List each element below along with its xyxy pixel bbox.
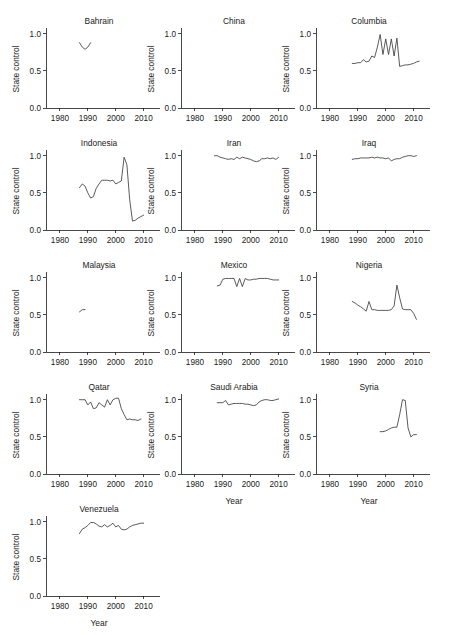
y-axis-title: State control [281,167,291,214]
x-tick-label: 2000 [242,236,261,245]
x-tick-label: 2000 [107,602,126,611]
data-line [79,398,140,420]
chart-canvas: Bahrain0.00.51.01980199020002010State co… [0,0,451,635]
panel-syria: Syria0.00.51.01980199020002010State cont… [281,382,430,506]
panel-title: Columbia [351,16,387,26]
y-tick-label: 1.0 [165,30,177,39]
y-tick-label: 0.5 [300,311,312,320]
y-tick-label: 0.5 [300,189,312,198]
figure-small-multiples: Bahrain0.00.51.01980199020002010State co… [0,0,451,635]
panel-title: Malaysia [82,260,115,270]
x-tick-label: 2000 [107,114,126,123]
y-tick-label: 1.0 [30,518,42,527]
panel-venezuela: Venezuela0.00.51.01980199020002010State … [11,504,160,628]
x-tick-label: 2000 [242,358,261,367]
x-tick-label: 1990 [79,602,98,611]
x-axis-title: Year [361,496,378,506]
y-axis-title: State control [281,411,291,458]
data-line [79,310,85,312]
y-tick-label: 0.5 [165,67,177,76]
x-tick-label: 1980 [51,480,70,489]
y-tick-label: 0.0 [30,592,42,601]
y-tick-label: 1.0 [300,274,312,283]
x-tick-label: 2010 [405,358,424,367]
x-tick-label: 1980 [51,602,70,611]
x-tick-label: 2010 [270,358,289,367]
y-tick-label: 1.0 [300,30,312,39]
x-tick-label: 2000 [107,480,126,489]
x-tick-label: 1990 [349,480,368,489]
y-axis-title: State control [11,289,21,336]
y-tick-label: 0.5 [30,67,42,76]
y-axis-title: State control [281,45,291,92]
x-tick-label: 1990 [214,480,233,489]
panel-title: Iran [227,138,242,148]
y-tick-label: 1.0 [300,152,312,161]
x-tick-label: 1980 [51,114,70,123]
x-tick-label: 1990 [79,480,98,489]
panel-iraq: Iraq0.00.51.01980199020002010State contr… [281,138,430,245]
y-tick-label: 0.0 [30,104,42,113]
data-line [217,399,278,406]
x-tick-label: 2010 [135,358,154,367]
x-tick-label: 2010 [135,114,154,123]
x-tick-label: 1980 [321,358,340,367]
y-tick-label: 0.0 [165,470,177,479]
panel-title: Nigeria [356,260,383,270]
x-tick-label: 2000 [107,358,126,367]
panel-title: Indonesia [81,138,118,148]
x-tick-label: 2000 [377,480,396,489]
panel-title: China [223,16,245,26]
x-tick-label: 2000 [242,114,261,123]
y-tick-label: 1.0 [30,152,42,161]
panel-bahrain: Bahrain0.00.51.01980199020002010State co… [11,16,160,123]
y-axis-title: State control [11,167,21,214]
x-tick-label: 1990 [79,114,98,123]
panel-iran: Iran0.00.51.01980199020002010State contr… [146,138,295,245]
x-axis-title: Year [226,496,243,506]
panel-mexico: Mexico0.00.51.01980199020002010State con… [146,260,295,367]
y-tick-label: 1.0 [165,396,177,405]
panel-title: Iraq [362,138,377,148]
x-tick-label: 1980 [321,236,340,245]
x-tick-label: 2010 [135,480,154,489]
data-line [79,43,90,50]
data-line [79,157,143,221]
y-axis-title: State control [281,289,291,336]
data-line [217,278,278,286]
x-tick-label: 2000 [377,114,396,123]
x-tick-label: 1980 [321,114,340,123]
x-tick-label: 2010 [405,236,424,245]
y-tick-label: 0.5 [30,433,42,442]
y-axis-title: State control [146,45,156,92]
panel-malaysia: Malaysia0.00.51.01980199020002010State c… [11,260,160,367]
panel-title: Bahrain [85,16,114,26]
y-tick-label: 1.0 [165,152,177,161]
x-tick-label: 1980 [51,236,70,245]
data-line [214,156,278,162]
y-axis-title: State control [11,533,21,580]
x-tick-label: 2010 [135,602,154,611]
x-tick-label: 1980 [186,114,205,123]
y-tick-label: 0.5 [165,311,177,320]
y-axis-title: State control [11,411,21,458]
x-tick-label: 2000 [242,480,261,489]
panel-nigeria: Nigeria0.00.51.01980199020002010State co… [281,260,430,367]
y-tick-label: 0.0 [30,470,42,479]
x-tick-label: 1990 [349,236,368,245]
y-tick-label: 0.0 [300,470,312,479]
y-tick-label: 0.0 [165,104,177,113]
panel-indonesia: Indonesia0.00.51.01980199020002010State … [11,138,160,245]
panel-title: Saudi Arabia [210,382,258,392]
data-line [352,156,416,161]
panel-qatar: Qatar0.00.51.01980199020002010State cont… [11,382,160,489]
panel-saudi-arabia: Saudi Arabia0.00.51.01980199020002010Sta… [146,382,295,506]
y-tick-label: 0.0 [165,226,177,235]
x-tick-label: 1990 [214,236,233,245]
y-axis-title: State control [146,289,156,336]
x-tick-label: 1980 [186,480,205,489]
x-tick-label: 1990 [79,358,98,367]
x-tick-label: 2000 [377,236,396,245]
y-tick-label: 0.5 [30,311,42,320]
y-tick-label: 0.0 [30,348,42,357]
